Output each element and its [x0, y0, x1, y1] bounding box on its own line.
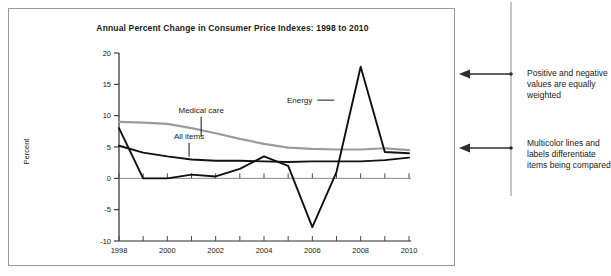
x-axis-tick-label: 2004: [256, 246, 273, 255]
y-axis-tick-label: 15: [103, 80, 111, 89]
y-axis-tick-label: -10: [100, 237, 111, 246]
series-line: [119, 122, 409, 150]
x-axis-tick-label: 1998: [111, 246, 128, 255]
x-axis-tick-label: 2002: [207, 246, 224, 255]
x-axis-tick-label: 2008: [352, 246, 369, 255]
line-chart: 20151050-5-10199820002002200420062008201…: [9, 9, 456, 267]
y-axis-tick-label: 0: [107, 174, 111, 183]
x-axis-tick-label: 2010: [401, 246, 418, 255]
series-line: [119, 67, 409, 227]
annotations-panel: Positive and negative values are equally…: [455, 0, 610, 276]
x-axis-tick-label: 2000: [159, 246, 176, 255]
y-axis-tick-label: 20: [103, 49, 111, 58]
x-axis-tick-label: 2006: [304, 246, 321, 255]
left-arrow-icon: [459, 144, 513, 153]
annotation-note-positive-negative: Positive and negative values are equally…: [527, 68, 611, 102]
series-label-energy: Energy: [287, 96, 312, 105]
left-arrow-icon: [459, 70, 513, 79]
annotation-note-multicolor: Multicolor lines and labels differentiat…: [527, 138, 611, 172]
y-axis-tick-label: 10: [103, 111, 111, 120]
y-axis-tick-label: -5: [104, 205, 111, 214]
series-label-all-items: All items: [174, 132, 204, 141]
y-axis-tick-label: 5: [107, 143, 111, 152]
series-label-medical-care: Medical care: [178, 106, 224, 115]
chart-frame: Annual Percent Change in Consumer Price …: [8, 8, 455, 266]
